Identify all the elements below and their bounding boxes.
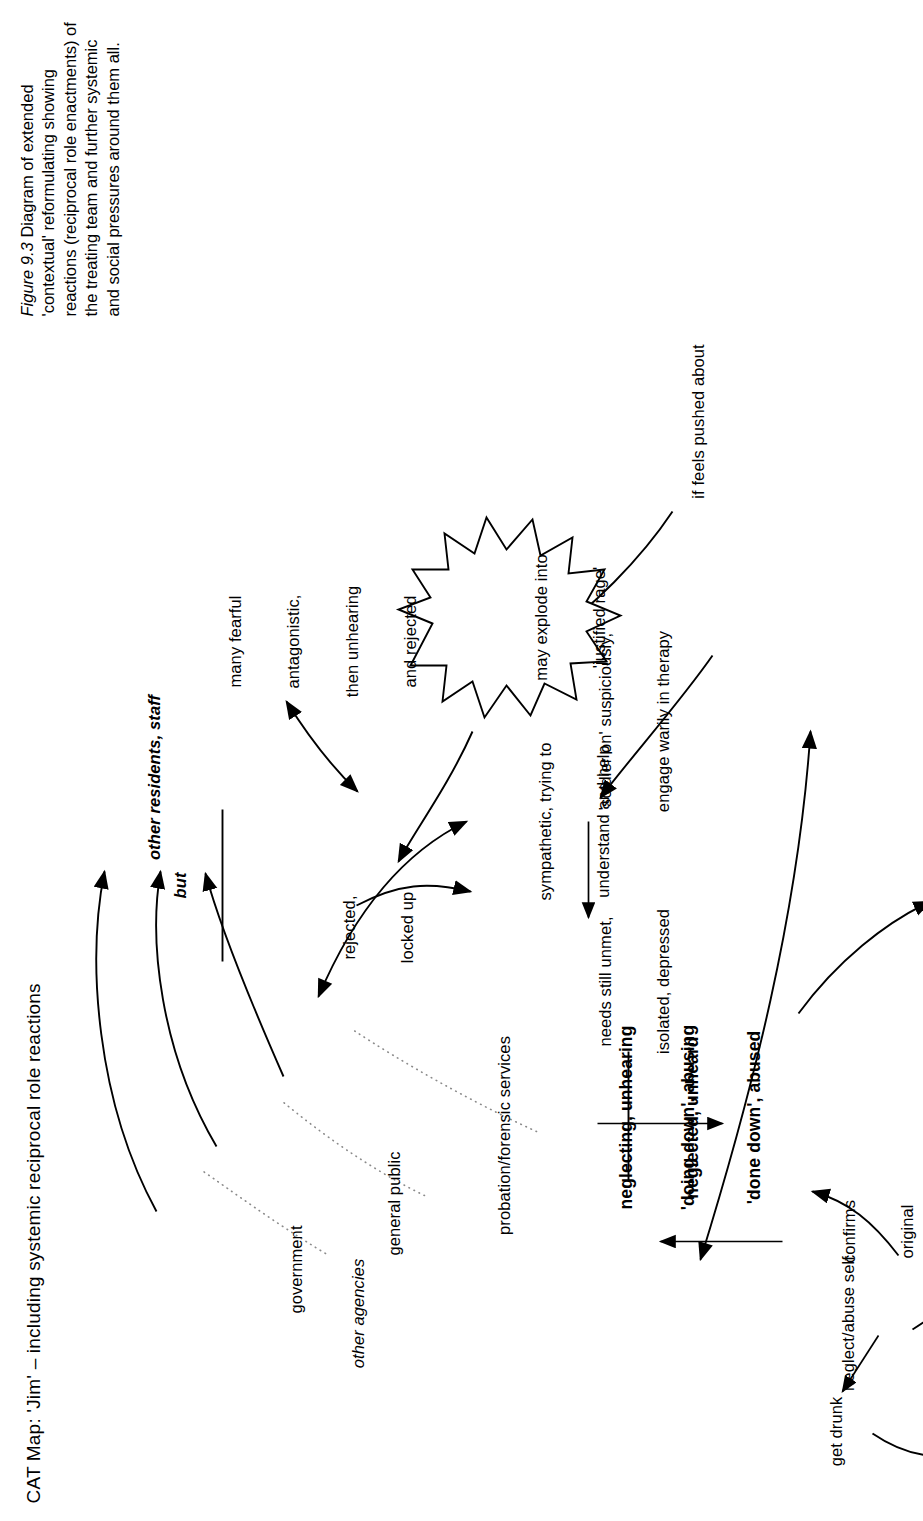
node-neglected-line-2: 'done down', abused xyxy=(743,1030,764,1204)
diagram-stage: CAT Map: 'Jim' – including systemic reci… xyxy=(0,0,923,1521)
node-government: government xyxy=(286,1225,305,1313)
page-title: CAT Map: 'Jim' – including systemic reci… xyxy=(22,983,44,1503)
node-neglecting-line-1: neglecting, unhearing xyxy=(615,1024,636,1209)
node-rejected-line-2: locked up xyxy=(397,891,416,963)
node-neglected-line-1: neglected, unheard xyxy=(681,1030,702,1204)
figure-caption: Figure 9.3 Diagram of extended 'contextu… xyxy=(16,16,123,316)
node-may-explode-line-2: 'justified rage' xyxy=(589,554,608,680)
node-confirms-line-1: confirms xyxy=(839,1186,858,1276)
node-sympathetic-line-1: sympathetic, trying to xyxy=(535,742,554,900)
node-confirms-original-experiences: confirms original experiences xyxy=(800,1186,923,1276)
node-many-fearful-line-4: and rejected xyxy=(400,585,419,697)
node-other-agencies: other agencies xyxy=(348,1258,367,1368)
node-may-explode: may explode into 'justified rage' xyxy=(492,554,648,680)
diagram-labels: CAT Map: 'Jim' – including systemic reci… xyxy=(0,0,923,1521)
node-get-drunk-left: get drunk xyxy=(826,1396,845,1466)
node-but: but xyxy=(170,872,189,898)
node-if-feels-pushed-about: if feels pushed about xyxy=(688,344,707,498)
node-many-fearful-line-3: then unhearing xyxy=(342,585,361,697)
node-confirms-line-2: original xyxy=(897,1186,916,1276)
node-soldier-line-2: engage warily in therapy xyxy=(653,630,672,811)
node-neglected-done-down: neglected, unheard 'done down', abused xyxy=(640,1030,805,1204)
node-many-fearful: many fearful antagonistic, then unhearin… xyxy=(186,585,459,697)
figure-number: Figure 9.3 xyxy=(17,242,35,316)
node-rejected-line-1: rejected, xyxy=(339,891,358,963)
node-many-fearful-line-2: antagonistic, xyxy=(283,585,302,697)
node-may-explode-line-1: may explode into xyxy=(531,554,550,680)
node-rejected-locked-up: rejected, locked up xyxy=(300,891,456,963)
node-many-fearful-line-1: many fearful xyxy=(225,585,244,697)
node-general-public: general public xyxy=(384,1151,403,1255)
node-other-residents-staff: other residents, staff xyxy=(144,694,163,859)
node-probation-forensic: probation/forensic services xyxy=(494,1036,513,1235)
